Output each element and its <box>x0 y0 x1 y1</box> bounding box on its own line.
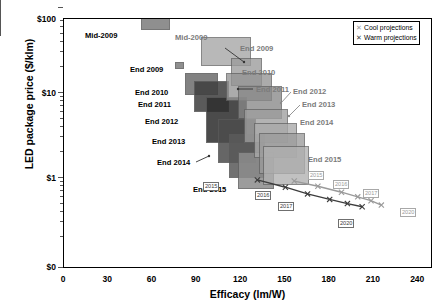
x-tick-label-60: 60 <box>132 274 172 284</box>
x-axis-label: Efficacy (lm/W) <box>63 288 432 300</box>
annotation-cool-end-2014: End 2014 <box>300 118 333 127</box>
y-tick-minor <box>60 26 63 27</box>
year-tag-warm-2015: 2015 <box>203 182 219 191</box>
x-tick-label-150: 150 <box>264 274 304 284</box>
annotation-cool-end-2010: End 2010 <box>242 68 275 77</box>
y-tick-minor <box>60 203 63 204</box>
y-tick-0: $0 <box>14 262 56 272</box>
year-tag-warm-2020: 2020 <box>338 219 354 228</box>
y-tick-100: $100 <box>14 14 56 24</box>
annotation-warm-end-2014: End 2014 <box>157 158 190 167</box>
y-tick-minor <box>60 181 63 182</box>
year-tag-cool-2017: 2017 <box>363 189 379 198</box>
y-tick-minor <box>60 66 63 67</box>
warm-marker-icon: ✕ <box>356 34 362 41</box>
year-tag-warm-2017: 2017 <box>278 202 294 211</box>
y-tick-minor <box>60 111 63 112</box>
annotation-cool-end-2009: End 2009 <box>240 44 273 53</box>
y-tick-minor <box>60 136 63 137</box>
x-tick-label-0: 0 <box>43 274 83 284</box>
y-tick-minor <box>60 151 63 152</box>
y-tick-minor <box>60 100 63 101</box>
y-tick-1: $1 <box>14 173 56 183</box>
x-tick-label-90: 90 <box>176 274 216 284</box>
legend-entry-cool: ✕ Cool projections <box>356 23 417 33</box>
annotation-warm-mid-2009: Mid-2009 <box>85 31 118 40</box>
annotation-cool-end-2011: End 2011 <box>256 85 289 94</box>
annotation-cool-mid-2009: Mid-2009 <box>175 33 208 42</box>
year-tag-cool-2016: 2016 <box>333 180 349 189</box>
y-tick-minor <box>60 20 63 21</box>
legend-label-warm: Warm projections <box>364 33 417 43</box>
plot-area <box>63 18 432 268</box>
y-tick-minor <box>60 236 63 237</box>
x-tick-label-30: 30 <box>87 274 127 284</box>
y-tick-major <box>58 267 63 268</box>
x-tick-label-210: 210 <box>353 274 393 284</box>
x-tick-240 <box>0 32 1 36</box>
y-tick-10: $10 <box>14 88 56 98</box>
y-tick-minor <box>60 190 63 191</box>
year-tag-cool-2015: 2015 <box>308 171 324 180</box>
annotation-warm-end-2009: End 2009 <box>130 65 163 74</box>
annotation-warm-end-2010: End 2010 <box>135 88 168 97</box>
y-tick-minor <box>60 105 63 106</box>
x-tick-label-180: 180 <box>309 274 349 284</box>
year-tag-cool-2020: 2020 <box>400 208 416 217</box>
y-tick-minor <box>60 196 63 197</box>
y-tick-minor <box>60 185 63 186</box>
x-tick-label-240: 240 <box>397 274 437 284</box>
y-tick-minor <box>60 221 63 222</box>
y-axis-label: LED package price ($/klm) <box>23 24 35 184</box>
y-tick-minor <box>60 33 63 34</box>
projection-svg <box>64 19 432 268</box>
led-price-efficacy-chart: LED package price ($/klm) $100 $10 $1 $0… <box>0 0 447 307</box>
legend: ✕ Cool projections ✕ Warm projections <box>353 21 420 45</box>
y-tick-minor <box>60 51 63 52</box>
annotation-cool-end-2015: End 2015 <box>308 155 341 164</box>
annotation-warm-end-2011: End 2011 <box>138 100 171 109</box>
y-tick-minor <box>60 211 63 212</box>
legend-entry-warm: ✕ Warm projections <box>356 33 417 43</box>
annotation-warm-end-2013: End 2013 <box>152 137 185 146</box>
y-tick-major <box>58 177 63 178</box>
y-tick-minor <box>60 118 63 119</box>
annotation-cool-end-2013: End 2013 <box>302 100 335 109</box>
y-tick-minor <box>60 41 63 42</box>
y-tick-minor <box>60 126 63 127</box>
annotation-warm-end-2012: End 2012 <box>145 117 178 126</box>
annotation-cool-end-2012: End 2012 <box>293 87 326 96</box>
y-tick-major <box>58 92 63 93</box>
legend-label-cool: Cool projections <box>364 23 413 33</box>
year-tag-warm-2016: 2016 <box>255 191 271 200</box>
y-tick-minor <box>60 96 63 97</box>
y-tick-major <box>58 7 63 8</box>
cool-marker-icon: ✕ <box>356 24 362 31</box>
x-tick-label-120: 120 <box>220 274 260 284</box>
